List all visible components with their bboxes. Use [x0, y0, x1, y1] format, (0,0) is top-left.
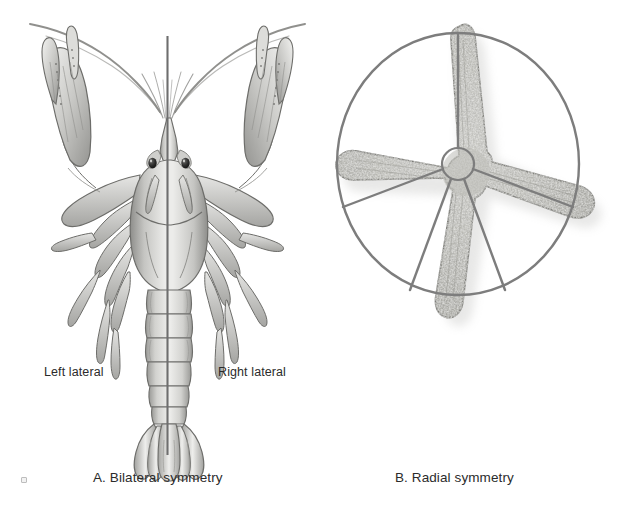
caption-radial-symmetry: B. Radial symmetry [395, 470, 514, 485]
panel-radial-symmetry [330, 0, 629, 508]
cheliped-right [195, 26, 293, 227]
scan-speck-artifact [21, 477, 27, 483]
caption-bilateral-symmetry: A. Bilateral symmetry [93, 470, 223, 485]
panel-bilateral-symmetry: Left lateral Right lateral [0, 0, 330, 508]
rostrum-and-head [130, 118, 208, 292]
label-left-lateral: Left lateral [44, 365, 104, 379]
symmetry-figure: Left lateral Right lateral [0, 0, 629, 508]
abdomen-segments [146, 290, 193, 424]
sea-star-illustration [330, 0, 629, 508]
cheliped-left [42, 26, 140, 227]
label-right-lateral: Right lateral [218, 365, 286, 379]
crayfish-illustration [0, 0, 330, 508]
